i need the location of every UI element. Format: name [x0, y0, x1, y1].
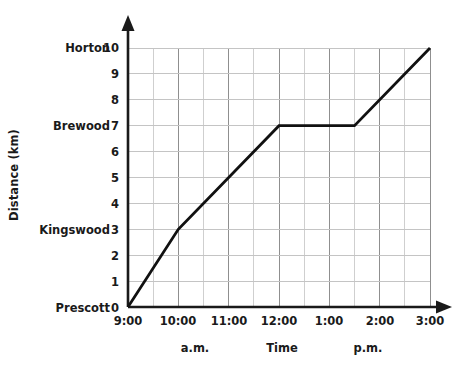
plot-area — [0, 0, 467, 376]
y-axis-arrow-icon — [122, 15, 135, 31]
distance-time-chart: Distance (km) Horton Brewood Kingswood P… — [0, 0, 467, 376]
y-axis — [122, 15, 135, 307]
x-axis — [128, 301, 452, 314]
x-axis-arrow-icon — [436, 301, 452, 314]
